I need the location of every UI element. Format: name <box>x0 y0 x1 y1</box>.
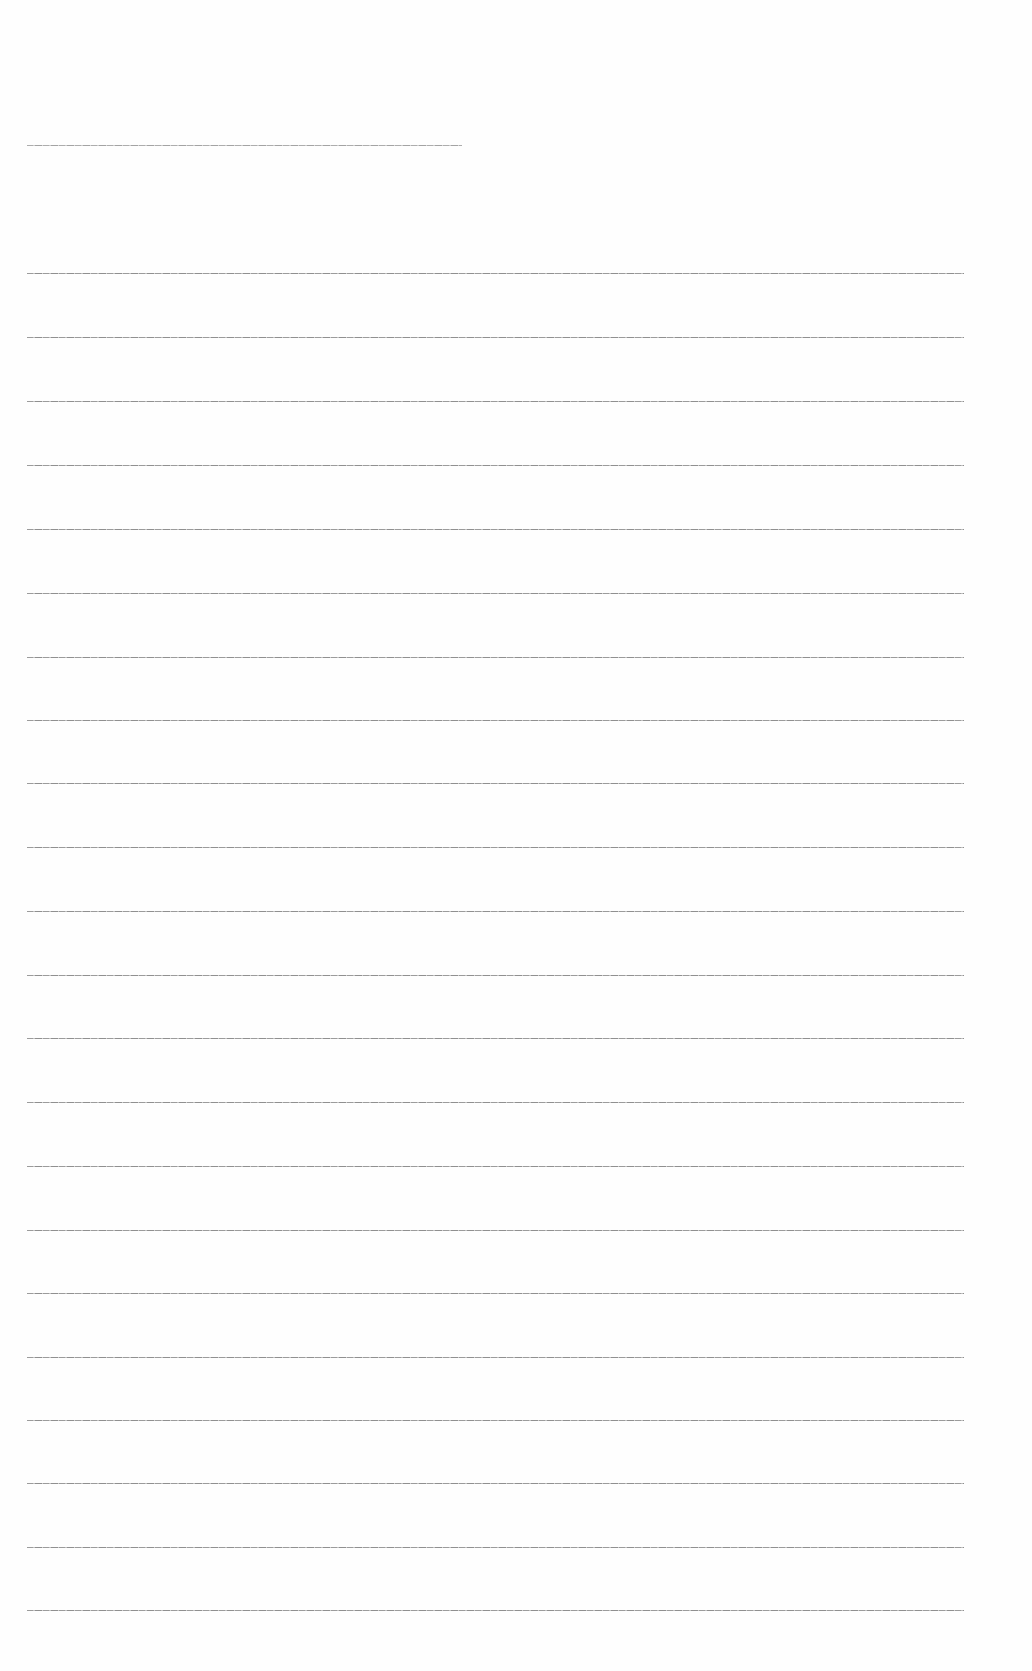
ruled-line <box>27 1038 964 1039</box>
ruled-line <box>27 465 964 466</box>
ruled-page <box>0 0 1032 1671</box>
ruled-line <box>27 273 964 274</box>
ruled-line <box>27 1420 964 1421</box>
ruled-line <box>27 720 964 721</box>
ruled-line <box>27 1166 964 1167</box>
ruled-line <box>27 1483 964 1484</box>
header-rule-line <box>27 145 462 146</box>
ruled-line <box>27 401 964 402</box>
ruled-line <box>27 337 964 338</box>
ruled-line <box>27 975 964 976</box>
ruled-line <box>27 657 964 658</box>
ruled-line <box>27 1610 964 1611</box>
ruled-line <box>27 911 964 912</box>
ruled-line <box>27 1230 964 1231</box>
ruled-line <box>27 847 964 848</box>
ruled-line <box>27 1293 964 1294</box>
ruled-line <box>27 1547 964 1548</box>
ruled-line <box>27 529 964 530</box>
ruled-line <box>27 1357 964 1358</box>
ruled-line <box>27 1102 964 1103</box>
ruled-line <box>27 593 964 594</box>
ruled-line <box>27 783 964 784</box>
